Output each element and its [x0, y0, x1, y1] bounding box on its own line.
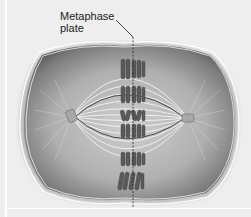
label-line-1: Metaphase — [60, 10, 114, 22]
centrosome-right — [182, 114, 194, 122]
label-leader-line — [116, 20, 133, 37]
label-line-2: plate — [60, 22, 114, 34]
metaphase-cell-diagram — [0, 0, 251, 217]
metaphase-plate-label: Metaphase plate — [60, 10, 114, 34]
